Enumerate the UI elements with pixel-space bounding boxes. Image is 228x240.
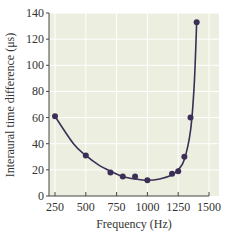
- y-tick-label: 120: [26, 32, 44, 46]
- data-point: [181, 154, 187, 160]
- y-tick-label: 0: [38, 189, 44, 203]
- y-tick-label: 40: [32, 137, 44, 151]
- data-point: [83, 152, 89, 158]
- x-axis-title: Frequency (Hz): [96, 217, 172, 231]
- data-point: [107, 169, 113, 175]
- x-tick-label: 1000: [135, 200, 159, 214]
- data-point: [169, 171, 175, 177]
- x-tick-label: 750: [108, 200, 126, 214]
- data-point: [132, 173, 138, 179]
- data-point: [175, 168, 181, 174]
- y-tick-label: 100: [26, 58, 44, 72]
- data-point: [120, 173, 126, 179]
- x-tick-label: 1500: [197, 200, 221, 214]
- y-axis-title: Interaural time difference (μs): [3, 33, 17, 177]
- x-tick-label: 250: [46, 200, 64, 214]
- x-tick-label: 500: [77, 200, 95, 214]
- chart: 020406080100120140250500750100012501500 …: [0, 0, 228, 240]
- data-point: [194, 19, 200, 25]
- data-point: [52, 113, 58, 119]
- y-tick-label: 80: [32, 84, 44, 98]
- y-tick-label: 20: [32, 163, 44, 177]
- y-tick-label: 60: [32, 111, 44, 125]
- x-tick-label: 1250: [166, 200, 190, 214]
- y-tick-label: 140: [26, 6, 44, 20]
- data-point: [188, 115, 194, 121]
- data-point: [144, 177, 150, 183]
